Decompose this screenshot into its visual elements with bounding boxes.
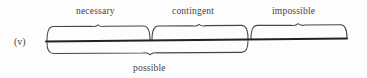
- bracket-vector-layer: [0, 0, 367, 78]
- bottom-brace-group: [47, 41, 248, 55]
- top-brace-necessary: [47, 25, 150, 41]
- top-brace-contingent: [152, 24, 248, 40]
- bottom-brace-possible: [47, 41, 248, 55]
- top-brace-impossible: [251, 24, 347, 39]
- axis-line-group: [46, 39, 347, 42]
- main-horizontal-line: [46, 39, 347, 42]
- modal-spectrum-figure: (v) necessary contingent impossible poss…: [0, 0, 367, 78]
